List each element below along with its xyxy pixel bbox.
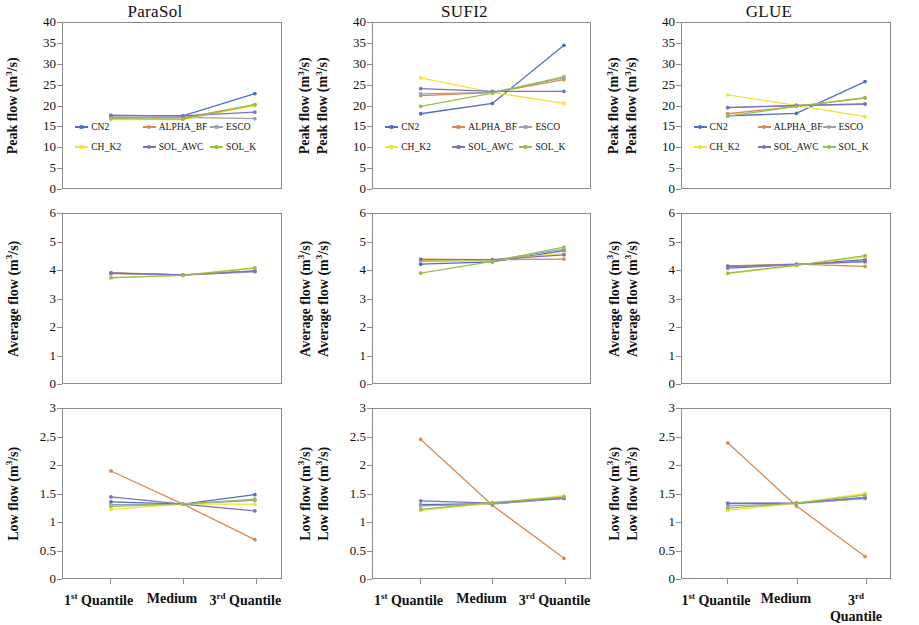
legend-item-ch_k2[interactable]: CH_K2 <box>75 142 142 152</box>
series-marker-cn2 <box>253 92 257 96</box>
y-tick-label: 2 <box>360 319 367 335</box>
y-tick-label: 0 <box>50 376 57 392</box>
x-axis-labels: 1st QuantileMedium3rd Quantile <box>62 591 282 609</box>
legend-item-alpha_bf[interactable]: ALPHA_BF <box>143 122 210 132</box>
legend-item-sol_k[interactable]: SOL_K <box>519 142 586 152</box>
y-tick-label: 1.5 <box>659 486 675 502</box>
y-axis-label: Average flow (m3/s) <box>2 213 24 384</box>
chart-panel-sufi2-average-flow: Average flow (m3/s)Average flow (m3/s)01… <box>310 205 619 400</box>
legend-item-esco[interactable]: ESCO <box>823 122 887 132</box>
series-marker-alpha_bf <box>863 265 867 269</box>
series-marker-alpha_bf <box>863 555 867 559</box>
y-tick-label: 2.5 <box>350 429 366 445</box>
y-tick-label: 1 <box>669 514 676 530</box>
series-marker-sol_k <box>253 103 257 107</box>
plot-area <box>62 22 282 189</box>
plot-area <box>372 213 591 384</box>
series-marker-sol_awc <box>863 259 867 263</box>
legend-item-alpha_bf[interactable]: ALPHA_BF <box>452 122 519 132</box>
y-axis-label: Average flow (m3/s) <box>312 213 334 384</box>
series-marker-sol_k <box>253 497 257 501</box>
legend-item-label: SOL_K <box>226 142 256 152</box>
series-marker-sol_k <box>181 502 185 506</box>
x-tick-mark <box>420 579 421 584</box>
series-marker-alpha_bf <box>109 469 113 473</box>
y-tick-label: 0.5 <box>350 543 366 559</box>
y-axis-label: Peak flow (m3/s) <box>621 22 643 189</box>
y-tick-mark <box>57 384 62 385</box>
x-axis-labels: 1st QuantileMedium3rd Quantile <box>372 591 591 609</box>
y-axis-ticks: 0123456 <box>32 213 60 384</box>
series-marker-sol_k <box>109 505 113 509</box>
legend-item-label: ALPHA_BF <box>468 122 517 132</box>
y-tick-label: 2 <box>50 319 57 335</box>
y-tick-mark <box>367 384 372 385</box>
y-tick-label: 0 <box>360 571 367 587</box>
y-tick-label: 30 <box>662 56 675 72</box>
y-axis-label: Average flow (m3/s) <box>621 213 643 384</box>
legend-item-sol_awc[interactable]: SOL_AWC <box>143 142 210 152</box>
y-tick-label: 2.5 <box>659 429 675 445</box>
legend-swatch-icon <box>143 146 156 148</box>
x-tick-mark <box>565 579 566 584</box>
y-axis-label: Peak flow (m3/s) <box>2 22 24 189</box>
chart-panel-sufi2-low-flow: Low flow (m3/s)Low flow (m3/s)00.511.522… <box>310 400 619 617</box>
legend-item-cn2[interactable]: CN2 <box>75 122 142 132</box>
y-tick-label: 10 <box>353 139 366 155</box>
legend-item-alpha_bf[interactable]: ALPHA_BF <box>758 122 823 132</box>
x-tick-label: 3rd Quantile <box>821 591 891 625</box>
series-marker-sol_k <box>419 271 423 275</box>
legend-item-cn2[interactable]: CN2 <box>385 122 452 132</box>
legend-item-sol_awc[interactable]: SOL_AWC <box>452 142 519 152</box>
series-marker-sol_k <box>726 271 730 275</box>
x-tick-label: Medium <box>135 591 208 609</box>
y-tick-label: 2 <box>669 319 676 335</box>
series-marker-cn2 <box>419 112 423 116</box>
plot-area <box>62 213 282 384</box>
legend-item-label: SOL_K <box>839 142 869 152</box>
legend-swatch-icon <box>452 126 465 128</box>
legend-item-esco[interactable]: ESCO <box>210 122 277 132</box>
y-tick-label: 2 <box>669 457 676 473</box>
y-axis-ticks: 00.511.522.53 <box>32 408 60 579</box>
legend-swatch-icon <box>452 146 465 148</box>
chart-panel-sufi2-peak-flow: SUFI2Peak flow (m3/s)Peak flow (m3/s)051… <box>310 0 619 205</box>
legend-swatch-icon <box>694 146 707 148</box>
y-tick-label: 1 <box>50 348 57 364</box>
y-tick-mark <box>367 189 372 190</box>
legend-item-esco[interactable]: ESCO <box>519 122 586 132</box>
y-tick-label: 0 <box>669 571 676 587</box>
y-axis-label: Low flow (m3/s) <box>312 408 334 579</box>
plot-area <box>372 408 591 579</box>
y-tick-label: 40 <box>43 14 56 30</box>
series-marker-sol_awc <box>562 253 566 257</box>
y-tick-label: 20 <box>43 98 56 114</box>
y-axis-ticks: 0510152025303540 <box>32 22 60 189</box>
legend-item-sol_k[interactable]: SOL_K <box>210 142 277 152</box>
series-marker-esco <box>253 117 257 121</box>
series-marker-sol_k <box>419 507 423 511</box>
y-tick-label: 3 <box>50 291 57 307</box>
legend-item-ch_k2[interactable]: CH_K2 <box>694 142 758 152</box>
y-tick-label: 10 <box>43 139 56 155</box>
legend-item-sol_awc[interactable]: SOL_AWC <box>758 142 823 152</box>
chart-panel-parasol-peak-flow: ParaSolPeak flow (m3/s)Peak flow (m3/s)0… <box>0 0 310 205</box>
legend-swatch-icon <box>385 146 398 148</box>
series-marker-sol_awc <box>726 106 730 110</box>
legend-item-sol_k[interactable]: SOL_K <box>823 142 887 152</box>
y-tick-label: 1 <box>360 514 367 530</box>
series-marker-sol_awc <box>109 271 113 275</box>
y-tick-label: 5 <box>669 234 676 250</box>
legend-item-ch_k2[interactable]: CH_K2 <box>385 142 452 152</box>
legend-item-cn2[interactable]: CN2 <box>694 122 758 132</box>
y-tick-label: 3 <box>360 291 367 307</box>
plot-area <box>681 22 891 189</box>
y-axis-label: Low flow (m3/s) <box>621 408 643 579</box>
series-marker-sol_k <box>795 263 799 267</box>
y-tick-label: 0 <box>669 181 676 197</box>
y-tick-label: 35 <box>662 35 675 51</box>
series-marker-sol_k <box>109 117 113 121</box>
legend-item-label: CH_K2 <box>91 142 121 152</box>
chart-panel-parasol-average-flow: Average flow (m3/s)Average flow (m3/s)01… <box>0 205 310 400</box>
y-axis-ticks: 00.511.522.53 <box>651 408 679 579</box>
